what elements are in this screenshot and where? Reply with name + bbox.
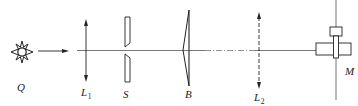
lens-l2: L2 (253, 12, 265, 106)
arrow-down-icon (257, 82, 261, 89)
arrow-down-icon (84, 75, 88, 82)
label-l2: L2 (253, 91, 265, 106)
light-source-q: Q (11, 41, 33, 93)
eyepiece-cap (330, 27, 342, 36)
slit-lower-jaw (125, 54, 130, 82)
slit-s: S (123, 17, 130, 100)
label-b: B (185, 88, 192, 100)
label-q: Q (17, 81, 25, 93)
label-l1: L1 (80, 86, 92, 101)
eyepiece-tube (334, 36, 339, 58)
optical-setup-diagram: Q L1 S B L2 M (0, 0, 358, 106)
lens-l1: L1 (80, 19, 92, 101)
incident-ray-arrow (38, 49, 69, 53)
arrow-up-icon (84, 19, 88, 26)
arrow-up-icon (257, 12, 261, 19)
label-m: M (344, 65, 355, 77)
biprism-b: B (183, 10, 192, 100)
label-s: S (123, 88, 129, 100)
micrometer-eyepiece-m: M (316, 0, 355, 100)
sun-icon (11, 41, 33, 63)
slit-upper-jaw (125, 17, 130, 47)
